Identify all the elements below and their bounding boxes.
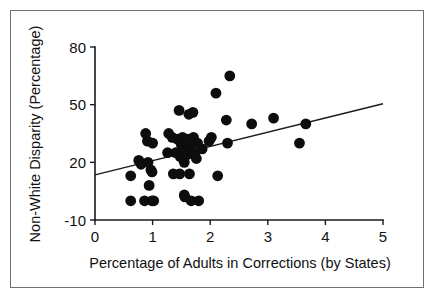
y-tick-label: -10 bbox=[64, 212, 86, 229]
data-point bbox=[222, 138, 233, 149]
x-tick-label: 4 bbox=[321, 228, 329, 245]
data-point bbox=[206, 132, 217, 143]
data-point bbox=[246, 118, 257, 129]
data-point bbox=[211, 88, 222, 99]
x-tick-label: 3 bbox=[264, 228, 272, 245]
scatter-plot: -10205080012345 Percentage of Adults in … bbox=[0, 0, 436, 300]
data-point bbox=[300, 118, 311, 129]
data-point bbox=[224, 70, 235, 81]
data-point bbox=[125, 170, 136, 181]
y-tick-label: 80 bbox=[69, 39, 86, 56]
x-tick-label: 0 bbox=[91, 228, 99, 245]
data-point bbox=[147, 138, 158, 149]
figure-panel: -10205080012345 Percentage of Adults in … bbox=[0, 0, 436, 300]
data-point bbox=[191, 153, 202, 164]
data-point bbox=[147, 167, 158, 178]
data-point bbox=[148, 195, 159, 206]
x-tick-label: 1 bbox=[148, 228, 156, 245]
data-point bbox=[188, 107, 199, 118]
data-point bbox=[174, 105, 185, 116]
data-point bbox=[268, 113, 279, 124]
data-point bbox=[174, 168, 185, 179]
data-point bbox=[144, 180, 155, 191]
y-tick-label: 20 bbox=[69, 154, 86, 171]
x-tick-label: 5 bbox=[379, 228, 387, 245]
data-point bbox=[193, 195, 204, 206]
x-axis-title: Percentage of Adults in Corrections (by … bbox=[89, 255, 390, 271]
data-points bbox=[125, 70, 311, 206]
data-point bbox=[294, 138, 305, 149]
data-point bbox=[184, 168, 195, 179]
x-tick-label: 2 bbox=[206, 228, 214, 245]
y-tick-label: 50 bbox=[69, 96, 86, 113]
data-point bbox=[125, 195, 136, 206]
y-axis-title: Non-White Disparity (Percentage) bbox=[27, 26, 43, 243]
data-point bbox=[221, 115, 232, 126]
data-point bbox=[212, 170, 223, 181]
